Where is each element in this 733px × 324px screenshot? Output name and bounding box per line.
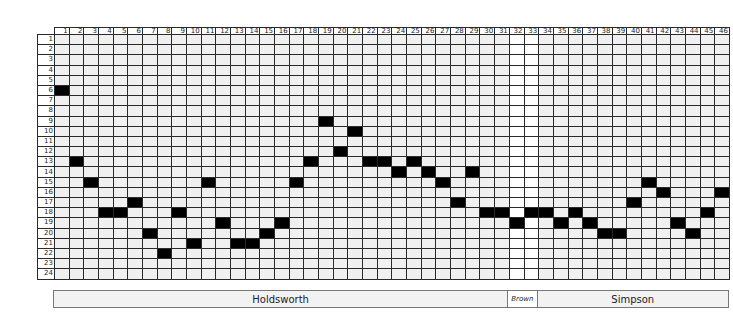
grid-cell [553,187,568,197]
grid-cell [304,126,319,136]
grid-cell [319,248,334,258]
grid-cell [671,116,686,126]
grid-cell [289,167,304,177]
grid-cell [392,228,407,238]
grid-cell [84,116,99,126]
grid-cell [69,45,84,55]
grid-cell [84,96,99,106]
grid-cell [99,228,114,238]
grid-cell [157,167,172,177]
grid-cell [231,116,246,126]
grid-cell [495,85,510,95]
grid-cell [524,157,539,167]
grid-cell [700,106,715,116]
grid-cell [187,116,202,126]
filled-cell [377,157,392,167]
grid-cell [421,136,436,146]
grid-cell [128,85,143,95]
grid-cell [275,208,290,218]
filled-cell [392,167,407,177]
grid-cell [69,96,84,106]
filled-cell [597,228,612,238]
grid-cell [524,116,539,126]
grid-cell [289,218,304,228]
grid-cell [700,187,715,197]
grid-cell [348,269,363,279]
grid-cell [656,35,671,45]
grid-cell [157,116,172,126]
filled-cell [275,218,290,228]
grid-cell [539,248,554,258]
grid-cell [509,167,524,177]
grid-cell [451,248,466,258]
grid-cell [377,198,392,208]
grid-cell [187,96,202,106]
grid-cell [377,96,392,106]
grid-cell [84,106,99,116]
grid-cell [260,65,275,75]
grid-cell [275,157,290,167]
grid-cell [201,157,216,167]
grid-cell [69,198,84,208]
grid-cell [113,167,128,177]
grid-cell [583,177,598,187]
filled-cell [128,198,143,208]
grid-cell [289,259,304,269]
grid-cell [201,45,216,55]
grid-cell [627,65,642,75]
grid-cell [363,147,378,157]
grid-cell [245,65,260,75]
column-header: 36 [568,28,583,35]
grid-cell [597,65,612,75]
filled-cell [465,167,480,177]
grid-cell [539,65,554,75]
grid-cell [421,75,436,85]
grid-cell [245,248,260,258]
filled-cell [113,208,128,218]
grid-cell [275,116,290,126]
grid-cell [99,238,114,248]
grid-cell [172,177,187,187]
grid-cell [201,198,216,208]
grid-cell [289,126,304,136]
grid-row: 9 [38,116,730,126]
grid-cell [685,177,700,187]
grid-cell [69,208,84,218]
grid-cell [143,167,158,177]
grid-cell [597,96,612,106]
row-label: 14 [38,167,55,177]
grid-cell [143,65,158,75]
column-header: 2 [69,28,84,35]
grid-row: 14 [38,167,730,177]
grid-cell [128,248,143,258]
grid-cell [231,65,246,75]
grid-cell [333,208,348,218]
grid-cell [715,228,730,238]
grid-cell [597,238,612,248]
grid-cell [641,248,656,258]
grid-cell [407,85,422,95]
grid-cell [715,85,730,95]
grid-cell [509,35,524,45]
position-grid: 1234567891011121314151617181920212223242… [37,27,730,280]
grid-cell [216,55,231,65]
grid-cell [715,136,730,146]
grid-cell [363,218,378,228]
grid-cell [436,65,451,75]
grid-cell [480,248,495,258]
grid-cell [421,208,436,218]
grid-cell [157,55,172,65]
grid-cell [509,228,524,238]
grid-cell [671,198,686,208]
grid-cell [597,106,612,116]
grid-cell [553,75,568,85]
segment-label-simpson: Simpson [538,291,728,307]
grid-cell [392,65,407,75]
grid-cell [333,35,348,45]
grid-cell [451,85,466,95]
grid-cell [363,35,378,45]
grid-cell [231,147,246,157]
grid-cell [245,177,260,187]
row-label: 18 [38,208,55,218]
grid-cell [451,147,466,157]
